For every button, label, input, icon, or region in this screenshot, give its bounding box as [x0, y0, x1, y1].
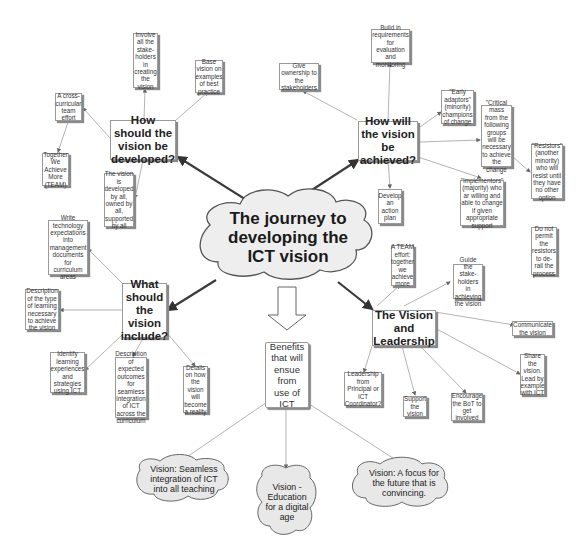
leaf-expected-outcomes[interactable]: Description of expected outcomes for sea… — [115, 357, 147, 418]
leaf-label: A cross-curricular team effort — [56, 92, 82, 122]
leaf-communicate-vision[interactable]: Communicate the vision — [512, 321, 553, 336]
leaf-base-best-practice[interactable]: Base vision on examples of best practice — [195, 60, 223, 93]
leaf-label: "Critical mass from the following groups… — [482, 99, 511, 173]
down-arrow-icon — [268, 287, 306, 330]
leaf-label: Share the vision. Lead by example with I… — [521, 352, 545, 396]
hub-label: How will the vision be achieved? — [360, 115, 416, 167]
hub-what-include[interactable]: What should the vision include? — [122, 283, 167, 338]
vision-label: Vision: A focus for the future that is c… — [362, 468, 446, 498]
vision-label: Vision: Seamless integration of ICT into… — [144, 464, 224, 494]
leaf-evaluation-monitoring[interactable]: Build in requirements for evaluation and… — [371, 29, 410, 63]
leaf-do-not-permit-resistors[interactable]: Do not permit the resistors to de-rail t… — [531, 227, 557, 275]
leaf-label: A TEAM effort: together we achieve more — [391, 243, 414, 287]
leaf-resistors[interactable]: "Resistors" (another minority) who will … — [531, 144, 563, 199]
leaf-details-reality[interactable]: Details on how the vision will become a … — [183, 366, 208, 413]
leaf-label: Guide the stake-holders in achieving the… — [455, 256, 482, 308]
leaf-label: Encourage the BoT to get involved — [452, 392, 482, 422]
benefits-label: Benefits that will ensue from use of ICT — [269, 341, 305, 410]
leaf-involve-stakeholders[interactable]: Involve all the stake-holders in creatin… — [133, 33, 158, 88]
leaf-action-plan[interactable]: Develop an action plan — [378, 189, 402, 224]
leaf-share-vision[interactable]: Share the vision. Lead by example with I… — [520, 354, 545, 395]
hub-vision-leadership[interactable]: The Vision and Leadership — [372, 310, 436, 346]
leaf-label: Write technology expectations into manag… — [50, 214, 87, 281]
leaf-label: Leadership from Principal or ICT Coordin… — [345, 370, 381, 407]
leaf-leadership-principal[interactable]: Leadership from Principal or ICT Coordin… — [344, 372, 382, 406]
hub-label: How should the vision be developed? — [111, 114, 175, 166]
hub-label: The Vision and Leadership — [373, 309, 434, 348]
leaf-label: Give ownership to the stakeholders — [281, 62, 317, 92]
vision-cloud-seamless[interactable]: Vision: Seamless integration of ICT into… — [144, 462, 224, 496]
leaf-label: Communicate the vision — [513, 321, 552, 336]
leaf-identify-experiences[interactable]: Identify learning experiences and strate… — [50, 352, 85, 393]
leaf-implementors[interactable]: "Implementors" (majority) who ar willing… — [460, 180, 504, 226]
leaf-description-learning[interactable]: Description of the type of learning nece… — [25, 289, 59, 330]
mind-map-canvas: The journey to developing the ICT vision… — [0, 0, 581, 558]
leaf-label: Do not permit the resistors to de-rail t… — [532, 225, 556, 277]
leaf-label: Description of expected outcomes for sea… — [115, 350, 147, 424]
leaf-label: The vision is developed by all, owned by… — [104, 170, 133, 229]
leaf-support-vision[interactable]: Support the vision — [403, 396, 427, 417]
leaf-write-tech-expectations[interactable]: Write technology expectations into manag… — [48, 220, 88, 275]
benefits-box[interactable]: Benefits that will ensue from use of ICT — [265, 342, 309, 408]
hub-how-developed[interactable]: How should the vision be developed? — [110, 120, 176, 160]
leaf-label: Support the vision — [404, 395, 426, 417]
center-topic-label: The journey to developing the ICT vision — [212, 209, 364, 266]
vision-cloud-future[interactable]: Vision: A focus for the future that is c… — [362, 466, 446, 500]
leaf-team-effort[interactable]: A TEAM effort: together we achieve more — [391, 245, 414, 286]
leaf-label: "Implementors" (majority) who ar willing… — [461, 177, 504, 229]
hub-how-achieved[interactable]: How will the vision be achieved? — [358, 121, 418, 161]
leaf-label: "Resistors" (another minority) who will … — [532, 142, 563, 201]
leaf-developed-by-all[interactable]: The vision is developed by all, owned by… — [104, 173, 134, 227]
vision-cloud-digital-age[interactable]: Vision - Education for a digital age — [262, 478, 312, 526]
leaf-label: Identify learning experiences and strate… — [51, 350, 85, 394]
vision-label: Vision - Education for a digital age — [262, 482, 312, 522]
leaf-guide-stakeholders[interactable]: Guide the stake-holders in achieving the… — [453, 264, 483, 299]
leaf-label: Base vision on examples of best practice — [196, 58, 223, 95]
leaf-label: "Early adaptors" (minority) champions of… — [442, 88, 472, 125]
center-topic: The journey to developing the ICT vision — [212, 204, 364, 270]
leaf-label: Develop an action plan — [378, 192, 401, 222]
leaf-label: Details on how the vision will become a … — [184, 364, 206, 416]
leaf-label: Description of the type of learning nece… — [26, 287, 58, 331]
leaf-cross-curricular[interactable]: A cross-curricular team effort — [55, 93, 82, 121]
leaf-team-acronym[interactable]: Together We Achieve More (TEAM) — [42, 153, 69, 186]
leaf-encourage-bot[interactable]: Encourage the BoT to get involved — [451, 393, 483, 421]
leaf-label: Build in requirements for evaluation and… — [372, 24, 409, 68]
leaf-give-ownership[interactable]: Give ownership to the stakeholders — [279, 63, 319, 90]
leaf-critical-mass[interactable]: "Critical mass from the following groups… — [481, 105, 512, 167]
hub-label: What should the vision include? — [121, 278, 168, 343]
leaf-early-adaptors[interactable]: "Early adaptors" (minority) champions of… — [441, 90, 474, 124]
leaf-label: Together We Achieve More (TEAM) — [43, 151, 68, 188]
leaf-label: Involve all the stake-holders in creatin… — [134, 31, 156, 90]
